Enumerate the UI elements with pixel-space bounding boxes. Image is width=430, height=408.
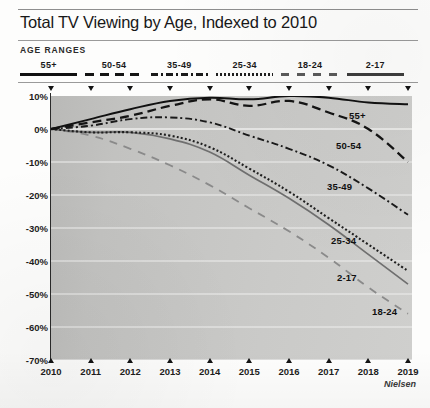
x-axis-tick-label: 2019: [397, 366, 418, 377]
x-axis-tick-label: 2010: [40, 366, 61, 377]
x-axis-tick-label: 2017: [318, 366, 339, 377]
top-year-marker: [246, 86, 252, 91]
series-label-35-49: 35-49: [327, 181, 352, 192]
source-credit: Nielsen: [384, 379, 416, 389]
top-year-marker: [48, 86, 54, 91]
x-axis-tick-marker: [365, 358, 371, 363]
series-label-18-24: 18-24: [372, 306, 397, 317]
x-axis: 2010201120122013201420152016201720182019: [0, 0, 430, 408]
x-axis-tick-label: 2015: [239, 366, 260, 377]
x-axis-tick-marker: [207, 358, 213, 363]
top-year-marker: [207, 86, 213, 91]
top-year-marker: [167, 86, 173, 91]
x-axis-tick-marker: [48, 358, 54, 363]
top-year-marker: [405, 86, 411, 91]
series-label-50-54: 50-54: [336, 140, 361, 151]
x-axis-tick-marker: [326, 358, 332, 363]
series-label-55-: 55+: [349, 110, 366, 121]
series-label-25-34: 25-34: [331, 235, 356, 246]
top-year-marker: [286, 86, 292, 91]
chart-page: Total TV Viewing by Age, Indexed to 2010…: [0, 0, 430, 408]
x-axis-tick-label: 2018: [358, 366, 379, 377]
top-year-marker: [326, 86, 332, 91]
x-axis-tick-marker: [246, 358, 252, 363]
x-axis-tick-marker: [88, 358, 94, 363]
top-year-marker: [88, 86, 94, 91]
x-axis-tick-label: 2012: [120, 366, 141, 377]
x-axis-tick-label: 2013: [159, 366, 180, 377]
series-label-2-17: 2-17: [337, 272, 357, 283]
x-axis-tick-marker: [405, 358, 411, 363]
plot-container: 10%0%-10%-20%-30%-40%-50%-60%-70% 201020…: [0, 0, 430, 408]
x-axis-tick-label: 2011: [80, 366, 101, 377]
x-axis-tick-label: 2016: [278, 366, 299, 377]
top-year-marker: [365, 86, 371, 91]
x-axis-tick-marker: [286, 358, 292, 363]
top-year-marker: [127, 86, 133, 91]
x-axis-tick-marker: [167, 358, 173, 363]
x-axis-tick-label: 2014: [199, 366, 220, 377]
x-axis-tick-marker: [127, 358, 133, 363]
